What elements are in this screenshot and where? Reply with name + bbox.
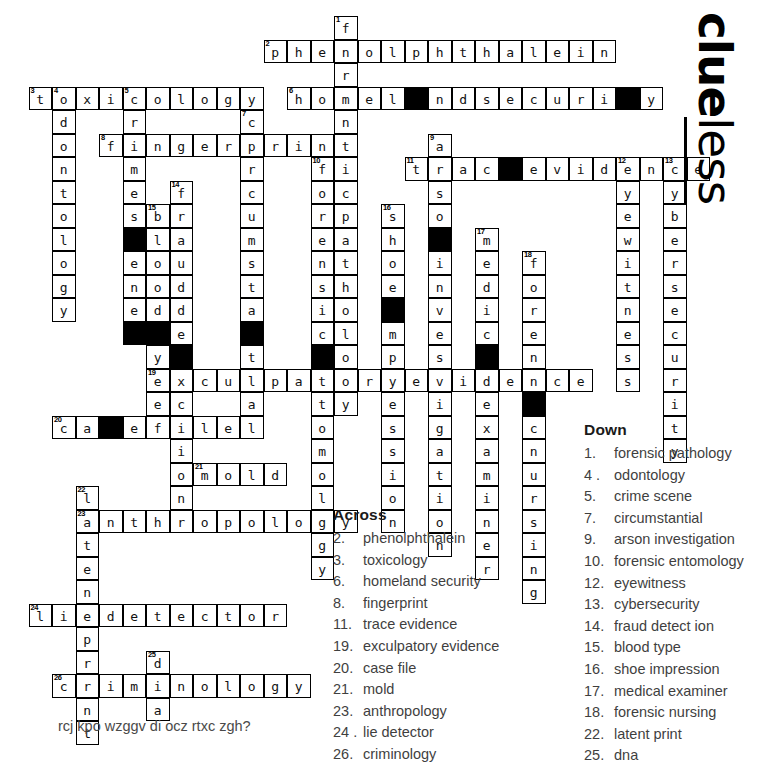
grid-cell[interactable]: y bbox=[334, 392, 358, 416]
grid-cell[interactable]: g bbox=[52, 275, 76, 299]
grid-cell[interactable]: s bbox=[240, 251, 264, 275]
grid-cell[interactable]: y bbox=[287, 674, 311, 698]
grid-cell[interactable]: a bbox=[240, 392, 264, 416]
grid-cell[interactable]: a bbox=[240, 298, 264, 322]
grid-cell[interactable]: d bbox=[146, 298, 170, 322]
grid-cell[interactable]: e bbox=[123, 298, 147, 322]
grid-cell[interactable]: c7 bbox=[240, 110, 264, 134]
grid-cell[interactable]: n bbox=[522, 369, 546, 393]
grid-cell[interactable]: e bbox=[616, 204, 640, 228]
grid-cell[interactable]: m21 bbox=[193, 463, 217, 487]
grid-cell[interactable]: r bbox=[358, 369, 382, 393]
grid-cell[interactable]: o bbox=[334, 298, 358, 322]
grid-cell[interactable]: o bbox=[522, 275, 546, 299]
grid-cell[interactable]: t bbox=[616, 275, 640, 299]
grid-cell[interactable]: r bbox=[311, 204, 335, 228]
grid-cell[interactable]: e bbox=[381, 392, 405, 416]
down-clue-4[interactable]: 4 .odontology bbox=[584, 465, 744, 487]
grid-cell[interactable]: r bbox=[76, 674, 100, 698]
grid-cell[interactable]: d bbox=[593, 157, 617, 181]
grid-cell[interactable]: l24 bbox=[29, 604, 53, 628]
grid-cell[interactable]: e bbox=[546, 40, 570, 64]
across-clue-24[interactable]: 24 .lie detector bbox=[333, 722, 499, 744]
down-clue-15[interactable]: 15.blood type bbox=[584, 637, 744, 659]
grid-cell[interactable]: i bbox=[170, 439, 194, 463]
grid-cell[interactable]: m17 bbox=[475, 228, 499, 252]
grid-cell[interactable]: f1 bbox=[334, 16, 358, 40]
grid-cell[interactable]: r bbox=[663, 369, 687, 393]
grid-cell[interactable]: o bbox=[240, 510, 264, 534]
grid-cell[interactable]: l bbox=[334, 322, 358, 346]
across-clue-23[interactable]: 23.anthropology bbox=[333, 701, 499, 723]
grid-cell[interactable]: s bbox=[381, 416, 405, 440]
grid-cell[interactable]: g bbox=[264, 674, 288, 698]
grid-cell[interactable]: r bbox=[522, 486, 546, 510]
grid-cell[interactable]: r bbox=[428, 157, 452, 181]
grid-cell[interactable]: g bbox=[311, 533, 335, 557]
grid-cell[interactable]: r bbox=[522, 298, 546, 322]
grid-cell[interactable]: h bbox=[287, 40, 311, 64]
down-clue-10[interactable]: 10.forensic entomology bbox=[584, 551, 744, 573]
grid-cell[interactable]: n bbox=[593, 40, 617, 64]
grid-cell[interactable]: l bbox=[217, 674, 241, 698]
grid-cell[interactable]: l bbox=[240, 463, 264, 487]
grid-cell[interactable]: c bbox=[334, 181, 358, 205]
grid-cell[interactable]: e bbox=[616, 322, 640, 346]
grid-cell[interactable]: r bbox=[240, 157, 264, 181]
grid-cell[interactable]: e bbox=[405, 369, 429, 393]
grid-cell[interactable]: v bbox=[428, 298, 452, 322]
grid-cell[interactable]: t bbox=[240, 275, 264, 299]
grid-cell[interactable]: n bbox=[522, 439, 546, 463]
grid-cell[interactable]: s16 bbox=[381, 204, 405, 228]
across-clue-6[interactable]: 6.homeland security bbox=[333, 571, 499, 593]
grid-cell[interactable]: i bbox=[123, 134, 147, 158]
grid-cell[interactable]: o bbox=[311, 87, 335, 111]
grid-cell[interactable]: l bbox=[193, 416, 217, 440]
grid-cell[interactable]: t bbox=[311, 369, 335, 393]
grid-cell[interactable]: t bbox=[311, 392, 335, 416]
grid-cell[interactable]: a bbox=[76, 416, 100, 440]
grid-cell[interactable]: c bbox=[193, 604, 217, 628]
grid-cell[interactable]: c bbox=[475, 322, 499, 346]
grid-cell[interactable]: e bbox=[217, 416, 241, 440]
grid-cell[interactable]: c bbox=[193, 369, 217, 393]
grid-cell[interactable]: o bbox=[146, 275, 170, 299]
grid-cell[interactable]: e bbox=[522, 322, 546, 346]
grid-cell[interactable]: d bbox=[99, 604, 123, 628]
grid-cell[interactable]: l bbox=[311, 486, 335, 510]
grid-cell[interactable]: l bbox=[146, 228, 170, 252]
grid-cell[interactable]: c bbox=[663, 322, 687, 346]
grid-cell[interactable]: a bbox=[170, 228, 194, 252]
grid-cell[interactable]: o bbox=[193, 510, 217, 534]
grid-cell[interactable]: t bbox=[428, 463, 452, 487]
across-clue-8[interactable]: 8.fingerprint bbox=[333, 593, 499, 615]
grid-cell[interactable]: n bbox=[146, 134, 170, 158]
grid-cell[interactable]: n bbox=[99, 510, 123, 534]
grid-cell[interactable]: i bbox=[428, 251, 452, 275]
across-clue-20[interactable]: 20.case file bbox=[333, 658, 499, 680]
grid-cell[interactable]: l bbox=[240, 416, 264, 440]
grid-cell[interactable]: l bbox=[381, 40, 405, 64]
grid-cell[interactable]: f8 bbox=[99, 134, 123, 158]
grid-cell[interactable]: c26 bbox=[52, 674, 76, 698]
grid-cell[interactable]: o bbox=[311, 463, 335, 487]
grid-cell[interactable]: s bbox=[428, 181, 452, 205]
grid-cell[interactable]: e bbox=[499, 87, 523, 111]
grid-cell[interactable]: o bbox=[52, 134, 76, 158]
grid-cell[interactable]: y bbox=[240, 87, 264, 111]
grid-cell[interactable]: n bbox=[52, 157, 76, 181]
grid-cell[interactable]: o bbox=[311, 416, 335, 440]
grid-cell[interactable]: f bbox=[146, 416, 170, 440]
grid-cell[interactable]: l bbox=[522, 40, 546, 64]
grid-cell[interactable]: d bbox=[170, 275, 194, 299]
grid-cell[interactable]: n bbox=[170, 674, 194, 698]
grid-cell[interactable]: u bbox=[522, 463, 546, 487]
grid-cell[interactable]: i bbox=[334, 157, 358, 181]
grid-cell[interactable]: g bbox=[522, 580, 546, 604]
grid-cell[interactable]: l bbox=[381, 87, 405, 111]
grid-cell[interactable]: g bbox=[170, 134, 194, 158]
grid-cell[interactable]: x bbox=[170, 369, 194, 393]
grid-cell[interactable]: o bbox=[240, 604, 264, 628]
grid-cell[interactable]: e bbox=[123, 416, 147, 440]
grid-cell[interactable]: n bbox=[616, 298, 640, 322]
